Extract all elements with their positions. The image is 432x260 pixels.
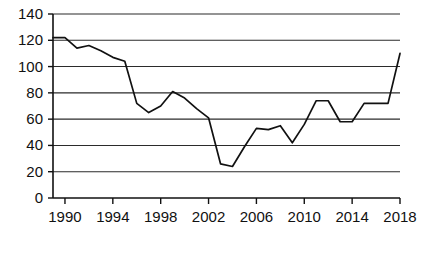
series-line-1: [53, 38, 400, 167]
y-tick-label: 60: [26, 110, 43, 127]
x-tick-label: 1998: [144, 208, 177, 225]
y-tick-label: 80: [26, 84, 43, 101]
gridlines-group: [53, 14, 400, 172]
x-axis-group: [53, 198, 400, 204]
x-tick-label: 1994: [96, 208, 129, 225]
y-tick-label: 40: [26, 136, 43, 153]
y-tick-label: 0: [35, 189, 43, 206]
x-tick-label: 2010: [288, 208, 321, 225]
x-tick-label: 2002: [192, 208, 225, 225]
line-chart: 020406080100120140 199019941998200220062…: [0, 0, 432, 260]
x-tick-label: 2006: [240, 208, 273, 225]
x-tick-label: 2018: [383, 208, 416, 225]
x-tick-label: 2014: [335, 208, 368, 225]
chart-canvas: 020406080100120140 199019941998200220062…: [0, 0, 432, 260]
y-axis-group: [48, 14, 53, 198]
data-series-group: [53, 38, 400, 167]
y-tick-labels-group: 020406080100120140: [18, 5, 43, 206]
y-tick-label: 120: [18, 31, 43, 48]
y-tick-label: 140: [18, 5, 43, 22]
x-tick-labels-group: 19901994199820022006201020142018: [48, 208, 416, 225]
y-tick-label: 100: [18, 58, 43, 75]
x-tick-label: 1990: [48, 208, 81, 225]
y-tick-label: 20: [26, 163, 43, 180]
